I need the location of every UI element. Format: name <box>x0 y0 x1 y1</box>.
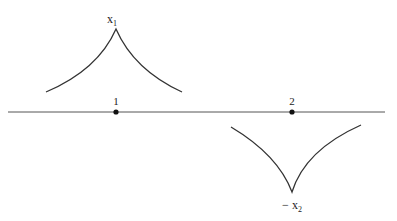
lower-cusp-curve <box>231 125 361 192</box>
lower-peak-prefix: − <box>282 198 289 212</box>
point-2-label: 2 <box>289 95 295 107</box>
upper-peak-sub: 1 <box>113 19 117 28</box>
point-2-marker <box>289 109 294 114</box>
point-1-label: 1 <box>113 95 119 107</box>
upper-cusp-curve <box>46 29 182 92</box>
diagram-canvas: 1 2 x1 −x2 <box>0 0 397 221</box>
point-1-marker <box>113 109 118 114</box>
lower-peak-sub: 2 <box>298 205 302 214</box>
upper-peak-label: x1 <box>107 12 117 28</box>
lower-peak-label: −x2 <box>282 198 302 214</box>
